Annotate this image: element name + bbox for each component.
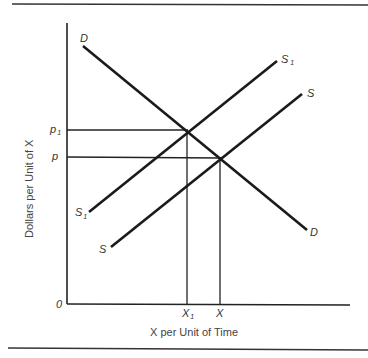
supply-s1-label-bottom: S1 [75,206,87,220]
demand-curve [83,46,307,230]
x-axis [67,304,350,305]
y-axis-title: Dollars per Unit of X [23,139,35,238]
top-rule [12,4,368,5]
quantity-x1-label: X1 [181,307,194,320]
supply-s-label-bottom: S [99,243,107,255]
origin-label: 0 [56,298,63,310]
p-guide-line [67,157,221,158]
quantity-x-label: X [215,307,224,319]
price-p-label: p [51,150,58,162]
price-p1-label: p1 [49,123,61,136]
demand-label-bottom: D [310,226,318,238]
supply-demand-diagram: D D S1 S1 S S p1 p X1 X 0 Dollars per Un… [0,0,368,358]
x-axis-title: X per Unit of Time [150,326,238,338]
supply-s1-label-top: S1 [281,53,294,66]
demand-label-top: D [80,32,88,44]
supply-s-label-top: S [307,87,315,99]
bottom-rule [8,348,368,350]
